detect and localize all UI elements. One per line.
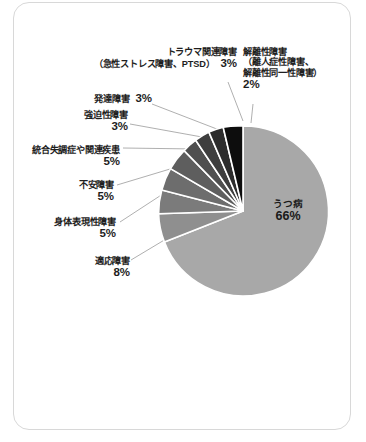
callout-trauma-percent: 3% (220, 57, 237, 70)
callout-anxiety: 不安障害 5% (40, 180, 114, 203)
slice-label-depression-label: うつ病 (252, 198, 324, 209)
callout-adjustment-label: 適応障害 (58, 256, 130, 266)
callout-adjustment-percent: 8% (58, 266, 130, 279)
callout-somatoform-percent: 5% (30, 227, 116, 240)
callout-adjustment: 適応障害 8% (58, 256, 130, 279)
callout-schizophrenia-percent: 5% (12, 155, 120, 168)
callout-somatoform-label: 身体表現性障害 (30, 217, 116, 227)
callout-ocd: 強迫性障害 3% (40, 110, 128, 133)
callout-dissociative-line3: 解離性同一性障害） (243, 68, 322, 78)
leader-line-developmental (152, 104, 222, 131)
callout-schizophrenia-label: 統合失調症や関連疾患 (12, 145, 120, 155)
callout-dissociative-line2: （離人症性障害、 (243, 57, 322, 67)
leader-line-trauma (228, 82, 243, 121)
callout-trauma-line2: （急性ストレス障害、PTSD） (94, 59, 215, 69)
callout-somatoform: 身体表現性障害 5% (30, 217, 116, 240)
slice-label-depression: うつ病 66% (252, 198, 324, 223)
pie-chart: トラウマ関連障害 （急性ストレス障害、PTSD） 3% 解離性障害 （離人症性障… (0, 0, 366, 442)
callout-developmental-percent: 3% (135, 92, 152, 105)
callout-dissociative-percent: 2% (243, 78, 322, 91)
callout-schizophrenia: 統合失調症や関連疾患 5% (12, 145, 120, 168)
callout-anxiety-label: 不安障害 (40, 180, 114, 190)
slice-label-depression-percent: 66% (252, 209, 324, 223)
callout-trauma-line1: トラウマ関連障害 (92, 47, 237, 57)
callout-developmental: 発達障害 3% (60, 92, 152, 105)
callout-dissociative: 解離性障害 （離人症性障害、 解離性同一性障害） 2% (243, 47, 322, 91)
callout-trauma: トラウマ関連障害 （急性ストレス障害、PTSD） 3% (92, 47, 237, 70)
callout-anxiety-percent: 5% (40, 190, 114, 203)
chart-page: トラウマ関連障害 （急性ストレス障害、PTSD） 3% 解離性障害 （離人症性障… (0, 0, 366, 442)
callout-ocd-label: 強迫性障害 (40, 110, 128, 120)
callout-developmental-label: 発達障害 (94, 94, 129, 104)
callout-dissociative-line1: 解離性障害 (243, 47, 322, 57)
leader-line-dissociative (251, 104, 253, 123)
callout-ocd-percent: 3% (40, 120, 128, 133)
